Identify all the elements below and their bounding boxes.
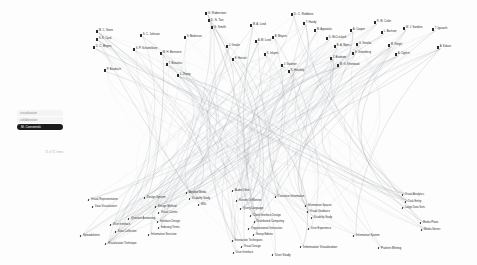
panel-row-0[interactable]: visualization — [17, 110, 63, 116]
author-node[interactable]: G. Robertson — [205, 12, 226, 15]
author-node[interactable]: G. Venolia — [356, 43, 371, 46]
tag-icon — [311, 217, 313, 220]
author-node[interactable]: B. A. Myers — [334, 45, 351, 48]
keyword-node[interactable]: Audio Other — [232, 190, 250, 193]
keyword-node[interactable]: Visual Analytics — [402, 194, 424, 197]
panel-row-1[interactable]: collaboration — [17, 117, 63, 123]
keyword-node[interactable]: Media Plane — [420, 222, 438, 225]
author-node[interactable]: M. H. Bernstein — [160, 52, 182, 55]
keyword-node[interactable]: Media Server — [421, 229, 440, 232]
author-node[interactable]: K. Hinckley — [288, 70, 304, 73]
author-node[interactable]: S. Greenberg — [352, 52, 371, 55]
keyword-node[interactable]: User Interface — [233, 252, 253, 255]
keyword-node[interactable]: Interaction Techniques — [232, 240, 262, 243]
author-node[interactable]: A. Cypher — [395, 53, 410, 56]
keyword-node[interactable]: Data Visualization — [92, 206, 117, 209]
author-node[interactable]: D. C. Robbins — [291, 13, 313, 16]
author-node[interactable]: S. P. Schottelkorp — [133, 48, 157, 51]
author-node[interactable]: M. Agrawala — [314, 29, 332, 32]
author-label: K. Hinckley — [291, 69, 305, 72]
keyword-node[interactable]: Information Spaces — [305, 205, 332, 208]
keyword-node[interactable]: User Experience — [308, 228, 331, 231]
author-node[interactable]: M. G. Sherwood — [337, 64, 359, 67]
keyword-node[interactable]: User Interface — [110, 224, 130, 227]
author-node[interactable]: M. Ringel — [388, 44, 402, 47]
author-node[interactable]: D. McCrickard — [326, 37, 346, 40]
author-node[interactable]: S. Bederson — [184, 36, 202, 39]
author-node[interactable]: R. M. Cutler — [374, 21, 391, 24]
keyword-node[interactable]: Design Method — [155, 206, 176, 209]
keyword-node[interactable]: Applied Media — [186, 192, 206, 195]
keyword-node[interactable]: Large Data Sets — [402, 207, 425, 210]
keyword-node[interactable]: Spreadsheets — [80, 235, 100, 238]
author-node[interactable]: T. Beaulieu — [166, 63, 182, 66]
tag-icon — [275, 196, 277, 199]
author-node[interactable]: D. C. Meyers — [93, 46, 112, 49]
author-node[interactable]: P. Baudisch — [104, 69, 121, 72]
keyword-node[interactable]: Visual Cortex — [158, 212, 177, 215]
author-node[interactable]: J. Bardram — [330, 57, 346, 60]
keyword-node[interactable]: Interface Design — [157, 221, 180, 224]
keyword-node[interactable]: Wiki — [198, 204, 206, 207]
author-node[interactable]: B. Meyers — [272, 36, 287, 39]
author-node[interactable]: D. S. Tan — [208, 19, 224, 22]
keyword-node[interactable]: Information Visualization — [300, 246, 337, 249]
keyword-node[interactable]: Visual Design — [241, 246, 261, 249]
author-node[interactable]: J. Gardner — [281, 64, 297, 67]
author-node[interactable]: J. Grudin — [226, 45, 240, 48]
author-node[interactable]: A. M. Lund — [255, 40, 271, 43]
item-count-caption: 71 of 71 items — [45, 150, 63, 154]
person-icon — [437, 46, 439, 49]
keyword-node[interactable]: Visual Representation — [88, 199, 118, 202]
author-node[interactable]: A. Kaban — [437, 46, 451, 49]
panel-row-selected[interactable]: M. Czerwinski — [17, 124, 63, 130]
author-label: W. J. Sanders — [406, 26, 423, 29]
author-label: L. Bartram — [384, 30, 397, 33]
keyword-node[interactable]: Transitive Information — [275, 196, 304, 199]
keyword-node[interactable]: Usability Study — [189, 198, 210, 201]
person-icon — [288, 70, 290, 73]
author-node[interactable]: W. J. Sanders — [403, 27, 423, 30]
keyword-node[interactable]: Pattern Mining — [378, 247, 401, 250]
author-node[interactable]: M. C. Stone — [96, 30, 113, 33]
person-icon — [374, 21, 376, 24]
keyword-node[interactable]: User Study — [272, 254, 291, 257]
keyword-node[interactable]: Question Answering — [128, 218, 155, 221]
author-node[interactable]: T. Handy — [303, 22, 316, 25]
author-node[interactable]: G. Smith — [211, 26, 226, 29]
person-icon — [352, 52, 354, 55]
author-node[interactable]: S. K. Card — [96, 38, 111, 41]
author-node[interactable]: M. A. Lund — [250, 24, 266, 27]
keyword-node[interactable]: Data Collection — [115, 231, 137, 234]
tag-icon — [402, 194, 404, 197]
keyword-node[interactable]: Distributed Computing — [254, 221, 284, 224]
author-node[interactable]: E. Horvitz — [232, 58, 247, 61]
keyword-node[interactable]: Design System — [144, 197, 165, 200]
author-node[interactable]: K. Inkpen — [264, 53, 278, 56]
tag-icon — [402, 207, 404, 210]
author-node[interactable]: S. C. Johnson — [140, 34, 160, 37]
selection-panel[interactable]: visualizationcollaborationM. Czerwinski — [17, 110, 63, 132]
keyword-node[interactable]: Screen Or Monitor — [236, 200, 261, 203]
author-node[interactable]: J. Zhang — [177, 74, 190, 77]
author-node[interactable]: L. Bartram — [381, 31, 396, 34]
keyword-node[interactable]: Usability Study — [311, 217, 332, 220]
keyword-node[interactable]: Client Interface Design — [250, 215, 281, 218]
keyword-label: Information System — [356, 234, 380, 237]
keyword-node[interactable]: Information Structure — [148, 234, 177, 237]
visualization-canvas[interactable]: M. C. StoneS. K. CardD. C. MeyersP. Baud… — [0, 0, 477, 265]
keyword-node[interactable]: Information System — [353, 235, 380, 238]
keyword-node[interactable]: Organizational Interaction — [248, 228, 282, 231]
author-node[interactable]: A. Cooper — [350, 29, 365, 32]
keyword-node[interactable]: Query Language — [240, 208, 263, 211]
keyword-node[interactable]: Visual Guidance — [307, 211, 330, 214]
author-node[interactable]: T. Igarashi — [432, 28, 447, 31]
person-icon — [291, 13, 293, 16]
person-icon — [232, 58, 234, 61]
person-icon — [96, 38, 98, 41]
keyword-node[interactable]: Group Editors — [253, 234, 273, 237]
keyword-node[interactable]: Visualization Technique — [105, 243, 137, 246]
person-icon — [96, 30, 98, 33]
keyword-node[interactable]: Indexing Terms — [158, 227, 180, 230]
keyword-node[interactable]: Task Entity — [405, 201, 421, 204]
